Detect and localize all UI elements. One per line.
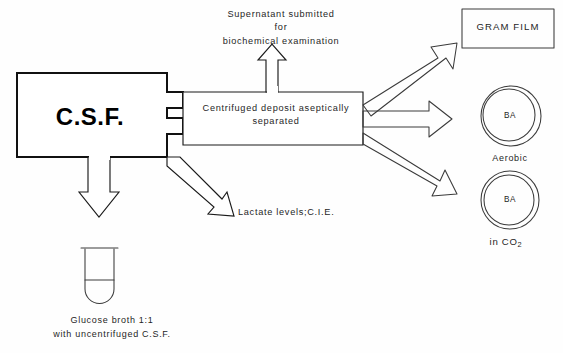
csf-source-label: C.S.F. — [16, 100, 164, 135]
broth-line-1: Glucose broth 1:1 — [22, 314, 202, 328]
arrow-to-broth-tube — [79, 157, 119, 217]
supernatant-line-1: Supernatant submitted — [200, 8, 362, 21]
glucose-broth-label: Glucose broth 1:1 with uncentrifuged C.S… — [22, 314, 202, 341]
supernatant-line-2: for — [200, 21, 362, 34]
petri-dish-co2-condition-label: in CO2 — [466, 235, 546, 249]
arrow-to-aerobic-plate — [363, 101, 452, 137]
up-arrow-base-mask — [267, 86, 278, 94]
centrifuged-deposit-label: Centrifuged deposit aseptically separate… — [190, 102, 362, 129]
deposit-line-1: Centrifuged deposit aseptically — [190, 102, 362, 115]
supernatant-branch-label: Supernatant submitted for biochemical ex… — [200, 8, 362, 48]
arrow-to-co2-plate — [363, 133, 457, 196]
petri-dish-aerobic-condition-label: Aerobic — [470, 152, 550, 165]
petri-dish-aerobic-medium-label: BA — [487, 110, 533, 122]
down-arrow-base-mask — [89, 152, 110, 160]
gram-film-label: GRAM FILM — [462, 20, 554, 34]
tube-body — [85, 249, 114, 304]
lactate-branch-label: Lactate levels;C.I.E. — [238, 206, 334, 219]
diagram-vector-layer — [0, 0, 563, 353]
deposit-line-2: separated — [190, 115, 362, 128]
co2-subscript: 2 — [518, 240, 523, 249]
broth-line-2: with uncentrifuged C.S.F. — [22, 328, 202, 342]
diagram-canvas: C.S.F. Supernatant submitted for biochem… — [0, 0, 563, 353]
petri-dish-co2-medium-label: BA — [487, 194, 533, 206]
supernatant-line-3: biochemical examination — [200, 35, 362, 48]
arrow-supernatant-up — [258, 44, 286, 92]
co2-condition-prefix: in CO — [490, 236, 518, 247]
glucose-broth-tube — [81, 248, 118, 304]
arrow-to-gram-film — [363, 43, 457, 116]
arrow-to-lactate — [167, 157, 234, 216]
